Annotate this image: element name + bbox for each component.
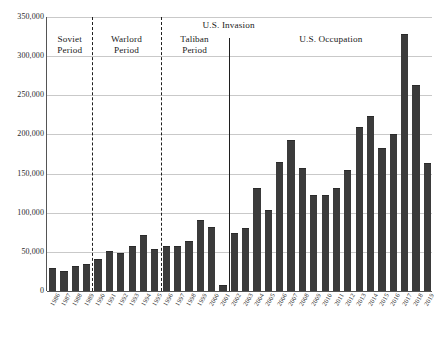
plot-area: Soviet PeriodWarlord PeriodTaliban Perio…	[46, 17, 432, 291]
bar-2014	[367, 116, 374, 291]
bar-2016	[390, 134, 397, 291]
warlord-taliban-divider	[161, 17, 162, 291]
bar-2019	[424, 163, 431, 291]
x-tick-label-1988: 1988	[71, 292, 84, 307]
y-tick-label-100000: 100,000	[0, 209, 44, 217]
x-tick-label-1993: 1993	[128, 292, 141, 307]
bar-1999	[197, 220, 204, 291]
x-tick-label-2010: 2010	[321, 292, 334, 307]
x-tick-label-1997: 1997	[173, 292, 186, 307]
bar-series	[47, 17, 432, 291]
x-tick-label-1987: 1987	[59, 292, 72, 307]
y-tick-label-350000: 350,000	[0, 13, 44, 21]
bar-1993	[129, 246, 136, 291]
x-tick-label-2003: 2003	[241, 292, 254, 307]
y-tick-label-200000: 200,000	[0, 130, 44, 138]
bar-1996	[163, 246, 170, 291]
bar-2004	[253, 188, 260, 291]
bar-2017	[401, 34, 408, 291]
y-tick-label-50000: 50,000	[0, 248, 44, 256]
bar-2007	[287, 140, 294, 291]
bar-1992	[117, 253, 124, 291]
x-tick-label-2004: 2004	[252, 292, 265, 307]
y-tick-label-150000: 150,000	[0, 170, 44, 178]
bar-2003	[242, 228, 249, 291]
bar-1997	[174, 246, 181, 291]
bar-1991	[106, 251, 113, 291]
bar-1988	[72, 266, 79, 291]
bar-1987	[60, 271, 67, 291]
x-tick-label-1991: 1991	[105, 292, 118, 307]
x-tick-label-2019: 2019	[423, 292, 436, 307]
y-axis-tick-labels: 050,000100,000150,000200,000250,000300,0…	[0, 17, 44, 291]
x-axis-tick-labels: 1986198719881989199019911992199319941995…	[46, 292, 432, 337]
x-tick-label-2001: 2001	[218, 292, 231, 307]
bar-2015	[378, 148, 385, 291]
x-tick-label-2017: 2017	[400, 292, 413, 307]
x-tick-label-2005: 2005	[264, 292, 277, 307]
opium-cultivation-bar-chart: 050,000100,000150,000200,000250,000300,0…	[0, 0, 440, 337]
x-tick-label-2015: 2015	[377, 292, 390, 307]
x-tick-label-1992: 1992	[116, 292, 129, 307]
bar-2013	[356, 127, 363, 291]
annotation-warlord-period: Warlord Period	[92, 34, 160, 56]
y-tick-label-300000: 300,000	[0, 52, 44, 60]
x-tick-label-2018: 2018	[411, 292, 424, 307]
bar-2005	[265, 210, 272, 291]
bar-1990	[94, 259, 101, 291]
bar-2010	[322, 195, 329, 291]
x-tick-label-1994: 1994	[139, 292, 152, 307]
x-tick-label-2012: 2012	[343, 292, 356, 307]
x-tick-label-1996: 1996	[162, 292, 175, 307]
bar-2008	[299, 168, 306, 291]
bar-1989	[83, 264, 90, 291]
soviet-warlord-divider	[92, 17, 93, 291]
bar-2018	[412, 85, 419, 291]
y-tick-label-0: 0	[0, 287, 44, 295]
annotation-us-invasion: U.S. Invasion	[169, 20, 289, 31]
x-tick-label-1989: 1989	[82, 292, 95, 307]
annotation-taliban-period: Taliban Period	[161, 34, 229, 56]
bar-2006	[276, 162, 283, 291]
x-tick-label-2009: 2009	[309, 292, 322, 307]
y-tick-label-250000: 250,000	[0, 91, 44, 99]
x-tick-label-1990: 1990	[93, 292, 106, 307]
bar-1994	[140, 235, 147, 291]
bar-2000	[208, 227, 215, 291]
x-tick-label-2013: 2013	[355, 292, 368, 307]
x-tick-label-2011: 2011	[332, 292, 345, 307]
x-tick-label-2000: 2000	[207, 292, 220, 307]
x-tick-label-1998: 1998	[184, 292, 197, 307]
x-tick-label-2006: 2006	[275, 292, 288, 307]
bar-2001	[219, 285, 226, 291]
x-tick-label-2016: 2016	[389, 292, 402, 307]
annotation-soviet-period: Soviet Period	[47, 34, 92, 56]
x-tick-label-1995: 1995	[150, 292, 163, 307]
bar-2002	[231, 233, 238, 291]
us-invasion-divider	[229, 38, 230, 291]
x-tick-label-2002: 2002	[230, 292, 243, 307]
bar-1998	[185, 241, 192, 291]
x-tick-label-1986: 1986	[48, 292, 61, 307]
x-tick-label-1999: 1999	[196, 292, 209, 307]
x-tick-label-2007: 2007	[286, 292, 299, 307]
bar-1986	[49, 268, 56, 291]
bar-2009	[310, 195, 317, 291]
annotation-us-occupation: U.S. Occupation	[229, 34, 433, 45]
x-tick-label-2008: 2008	[298, 292, 311, 307]
x-tick-label-2014: 2014	[366, 292, 379, 307]
bar-2012	[344, 170, 351, 291]
bar-2011	[333, 188, 340, 291]
bar-1995	[151, 249, 158, 291]
